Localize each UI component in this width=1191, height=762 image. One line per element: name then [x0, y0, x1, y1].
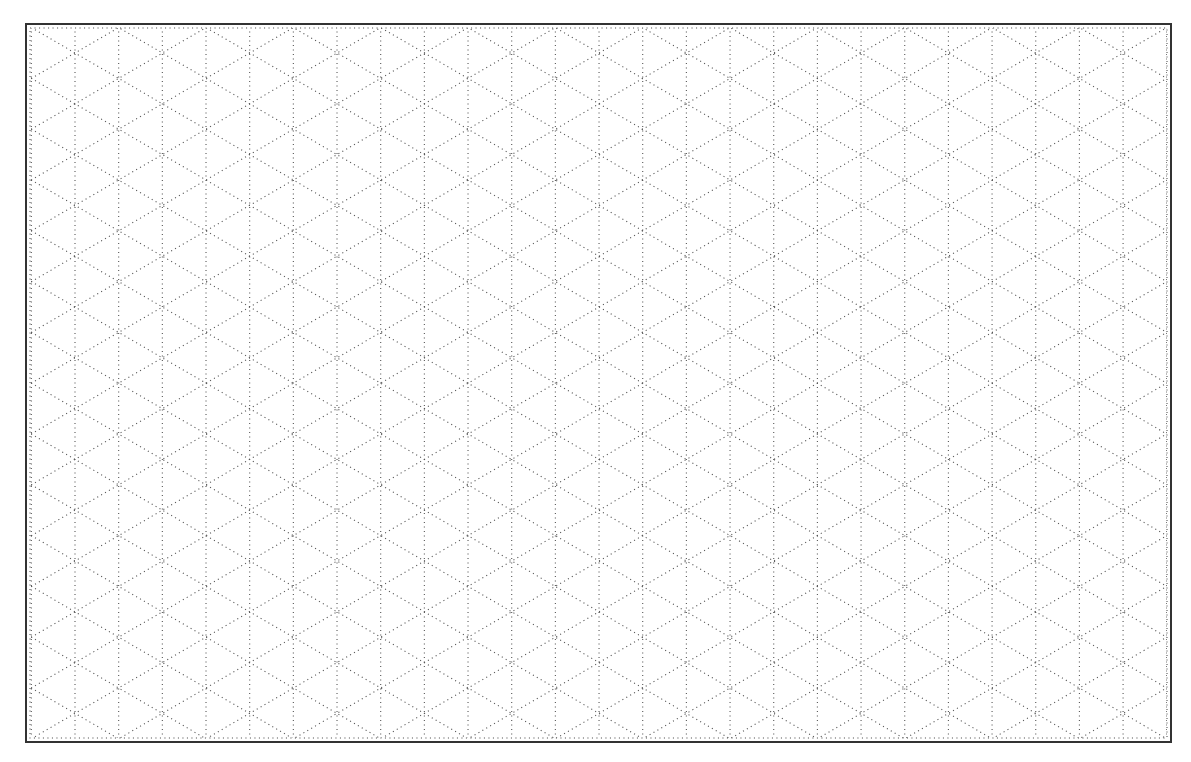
grid-line-diagonal-down: [0, 314, 1191, 762]
grid-line-diagonal-up: [0, 674, 1191, 762]
grid-line-diagonal-down: [0, 416, 1191, 762]
grid-line-diagonal-down: [0, 213, 1191, 762]
grid-line-diagonal-down: [0, 0, 1191, 245]
grid-line-diagonal-down: [0, 0, 1191, 550]
grid-line-diagonal-up: [0, 471, 1191, 762]
grid-line-diagonal-down: [0, 0, 1191, 651]
grid-line-diagonal-up: [0, 217, 1191, 762]
grid-line-diagonal-down: [0, 517, 1191, 762]
grid-line-diagonal-up: [0, 318, 1191, 762]
grid-line-diagonal-up: [0, 0, 1191, 300]
grid-line-diagonal-up: [0, 0, 1191, 554]
grid-line-diagonal-down: [0, 60, 1191, 753]
grid-line-diagonal-down: [0, 9, 1191, 702]
grid-line-diagonal-up: [0, 572, 1191, 762]
grid-line-diagonal-up: [0, 420, 1191, 762]
grid-line-diagonal-up: [0, 0, 1191, 351]
grid-line-diagonal-down: [0, 0, 1191, 42]
isometric-grid: [0, 0, 1191, 762]
grid-lines: [0, 0, 1191, 762]
grid-line-diagonal-up: [0, 0, 1191, 655]
grid-line-diagonal-up: [0, 0, 1191, 452]
grid-line-diagonal-up: [0, 13, 1191, 706]
grid-line-diagonal-up: [0, 0, 1191, 97]
grid-line-diagonal-down: [0, 0, 1191, 347]
grid-line-diagonal-down: [0, 619, 1191, 762]
grid-line-diagonal-up: [0, 0, 1191, 401]
grid-line-diagonal-up: [0, 369, 1191, 762]
grid-line-diagonal-down: [0, 0, 1191, 397]
grid-line-diagonal-up: [0, 725, 1191, 762]
grid-line-diagonal-down: [0, 0, 1191, 194]
grid-line-diagonal-down: [0, 0, 1191, 499]
grid-line-diagonal-up: [0, 521, 1191, 762]
grid-line-diagonal-down: [0, 0, 1191, 296]
grid-line-diagonal-up: [0, 166, 1191, 762]
grid-line-diagonal-up: [0, 0, 1191, 503]
grid-line-diagonal-up: [0, 0, 1191, 605]
grid-line-diagonal-up: [0, 267, 1191, 762]
grid-line-diagonal-up: [0, 64, 1191, 757]
grid-line-diagonal-up: [0, 0, 1191, 249]
grid-line-diagonal-down: [0, 0, 1191, 143]
grid-line-diagonal-up: [0, 0, 1191, 147]
grid-line-diagonal-down: [0, 0, 1191, 93]
